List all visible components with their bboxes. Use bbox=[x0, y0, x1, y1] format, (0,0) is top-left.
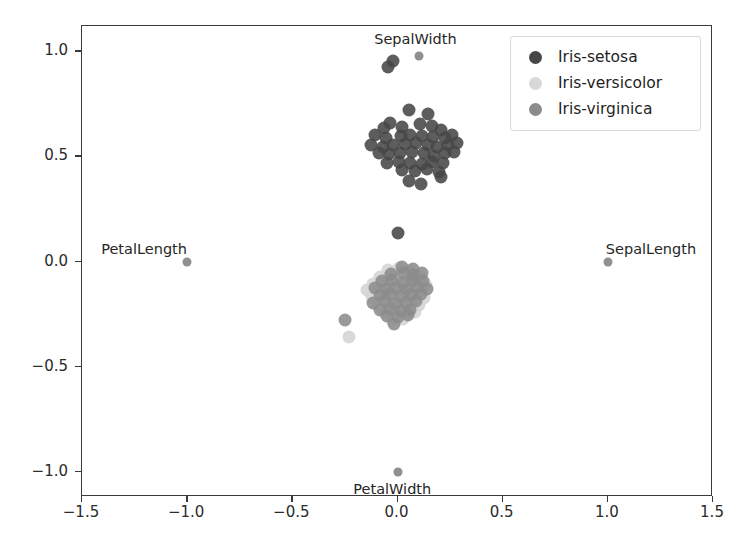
data-point bbox=[402, 309, 415, 322]
feature-label: SepalWidth bbox=[374, 31, 456, 47]
y-axis-tick bbox=[75, 155, 81, 156]
legend-label-versicolor: Iris-versicolor bbox=[558, 74, 662, 92]
y-axis-tick bbox=[75, 261, 81, 262]
y-axis-tick-label: −1.0 bbox=[32, 462, 68, 480]
x-axis-tick-label: 1.0 bbox=[595, 503, 619, 521]
x-axis-tick bbox=[186, 496, 187, 502]
legend-item[interactable]: Iris-setosa bbox=[521, 44, 690, 70]
data-point bbox=[414, 177, 427, 190]
data-point bbox=[343, 331, 356, 344]
x-axis-tick-label: 0.5 bbox=[490, 503, 514, 521]
x-axis-tick bbox=[502, 496, 503, 502]
feature-label: SepalLength bbox=[606, 241, 696, 257]
y-axis-tick bbox=[75, 471, 81, 472]
x-axis-tick bbox=[81, 496, 82, 502]
scatter-plot-figure: −1.5−1.0−0.50.00.51.01.51.00.50.0−0.5−1.… bbox=[0, 0, 740, 556]
y-axis-tick-label: 1.0 bbox=[44, 41, 68, 59]
feature-vector-marker bbox=[414, 52, 423, 61]
legend-item[interactable]: Iris-versicolor bbox=[521, 70, 690, 96]
data-point bbox=[391, 227, 404, 240]
legend-label-setosa: Iris-setosa bbox=[558, 48, 638, 66]
y-axis-tick-label: −0.5 bbox=[32, 357, 68, 375]
data-point bbox=[388, 317, 401, 330]
feature-vector-marker bbox=[603, 257, 612, 266]
y-axis-tick-label: 0.0 bbox=[44, 252, 68, 270]
x-axis-tick-label: −0.5 bbox=[273, 503, 309, 521]
feature-label: PetalWidth bbox=[353, 481, 431, 497]
x-axis-tick-label: −1.0 bbox=[168, 503, 204, 521]
y-axis-tick bbox=[75, 50, 81, 51]
feature-label: PetalLength bbox=[101, 241, 187, 257]
legend-marker-virginica-icon bbox=[529, 103, 542, 116]
legend-item[interactable]: Iris-virginica bbox=[521, 96, 690, 122]
data-point bbox=[403, 104, 416, 117]
legend-marker-versicolor-icon bbox=[529, 77, 542, 90]
x-axis-tick-label: 1.5 bbox=[700, 503, 724, 521]
y-axis-tick bbox=[75, 366, 81, 367]
data-point bbox=[413, 117, 426, 130]
x-axis-tick bbox=[712, 496, 713, 502]
data-point bbox=[434, 171, 447, 184]
x-axis-tick bbox=[397, 496, 398, 502]
legend-marker-setosa-icon bbox=[529, 51, 542, 64]
x-axis-tick bbox=[291, 496, 292, 502]
y-axis-tick-label: 0.5 bbox=[44, 146, 68, 164]
data-point bbox=[382, 61, 395, 74]
legend: Iris-setosa Iris-versicolor Iris-virgini… bbox=[510, 36, 701, 131]
feature-vector-marker bbox=[393, 467, 402, 476]
data-point bbox=[448, 146, 461, 159]
legend-label-virginica: Iris-virginica bbox=[558, 100, 652, 118]
x-axis-tick-label: 0.0 bbox=[385, 503, 409, 521]
x-axis-tick bbox=[607, 496, 608, 502]
x-axis-tick-label: −1.5 bbox=[63, 503, 99, 521]
feature-vector-marker bbox=[183, 257, 192, 266]
data-point bbox=[338, 314, 351, 327]
